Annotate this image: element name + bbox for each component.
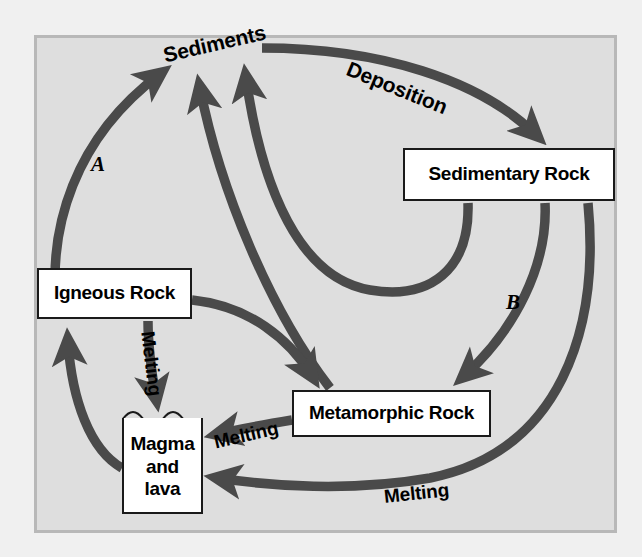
node-magma-and-lava[interactable]: Magma and lava bbox=[122, 418, 203, 514]
magma-label-line-2: and bbox=[146, 456, 179, 478]
arrow-metamorphic-rock-to-sediments bbox=[200, 88, 330, 388]
arrow-label-process-b: B bbox=[506, 290, 520, 315]
arrow-magma-to-igneous-rock bbox=[68, 342, 122, 468]
node-igneous-rock[interactable]: Igneous Rock bbox=[37, 268, 192, 319]
arrow-label-process-a: A bbox=[91, 152, 105, 177]
arrow-sedimentary-rock-to-magma bbox=[218, 203, 590, 486]
magma-label-line-3: lava bbox=[145, 478, 181, 500]
arrow-magma-to-sediments-a bbox=[55, 74, 160, 300]
arrow-sedimentary-rock-to-metamorphic-rock-b bbox=[464, 203, 545, 376]
node-sedimentary-rock[interactable]: Sedimentary Rock bbox=[403, 148, 615, 201]
rock-cycle-diagram-page: Sedimentary Rock Igneous Rock Metamorphi… bbox=[0, 0, 642, 557]
node-metamorphic-rock[interactable]: Metamorphic Rock bbox=[292, 390, 491, 437]
magma-label-line-1: Magma bbox=[131, 433, 195, 455]
